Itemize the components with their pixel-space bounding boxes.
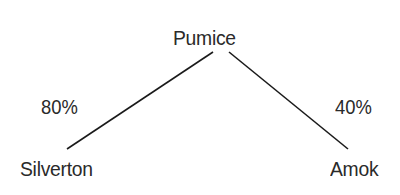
edge-pumice-silverton	[67, 52, 213, 149]
child-node-label-amok: Amok	[330, 158, 378, 179]
root-node-label: Pumice	[173, 27, 236, 48]
edge-pumice-amok	[229, 52, 348, 149]
edge-label-silverton: 80%	[41, 97, 78, 117]
child-node-label-silverton: Silverton	[20, 158, 93, 179]
edge-label-amok: 40%	[335, 97, 372, 117]
